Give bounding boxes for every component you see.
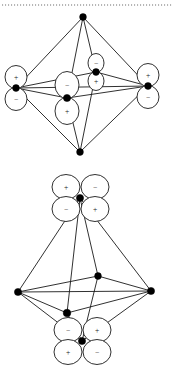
atom-dot-apex-bottom — [78, 337, 85, 344]
edge-back-right — [98, 276, 151, 291]
figure-top-edges — [16, 17, 148, 152]
lobe-lower-right — [83, 340, 111, 365]
edge-right-front — [67, 291, 151, 313]
atom-dot-equatorial-right — [147, 287, 154, 294]
lobe-lower-right — [81, 197, 109, 222]
atom-dot-apex-top — [76, 194, 83, 201]
atom-dot-apex-top — [80, 14, 87, 21]
figure-bottom: + − − + − + + − — [14, 175, 154, 365]
figure-bottom-edges — [18, 198, 151, 341]
atom-dot-equatorial-right — [145, 83, 152, 90]
lobe-upper-right — [83, 318, 111, 343]
lobe-upper-left — [52, 175, 80, 200]
lobe-lower-left — [52, 197, 80, 222]
atom-dot-equatorial-left — [13, 85, 20, 92]
lobe-upper-right — [81, 175, 109, 200]
orbital-diagram-figure: + − + − − + − + — [0, 0, 174, 379]
diagram-canvas: + − + − − + − + — [0, 0, 174, 379]
atom-dot-equatorial-front — [63, 94, 70, 101]
atom-dot-equatorial-left — [14, 288, 21, 295]
figure-top: + − + − − + − + — [5, 14, 159, 156]
edge-left-right-diagonal — [16, 86, 148, 88]
lobe-lower-left — [54, 340, 82, 365]
edge-left-back — [18, 276, 98, 292]
atom-dot-apex-bottom — [77, 149, 84, 156]
edge-front-left — [18, 292, 67, 313]
atom-dot-equatorial-front — [63, 309, 71, 317]
atom-dot-equatorial-back — [95, 273, 102, 280]
lobe-upper-left — [54, 318, 82, 343]
edge-left-right-diagonal — [18, 291, 151, 292]
atom-dot-equatorial-back — [93, 69, 100, 76]
